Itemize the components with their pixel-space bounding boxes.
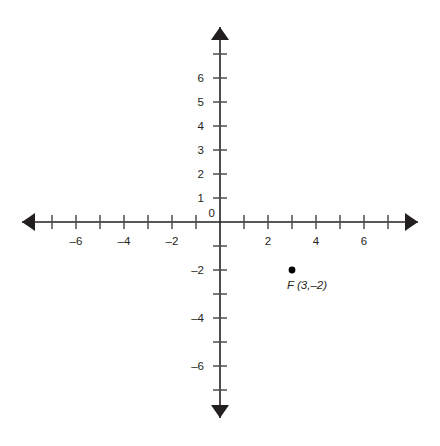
x-axis-tick-label: –2 [166, 235, 179, 247]
origin-label: 0 [209, 207, 215, 219]
x-axis-tick-label: –4 [118, 235, 131, 247]
x-axis-tick-label: 6 [361, 235, 367, 247]
y-axis-tick-label: 5 [198, 96, 204, 108]
x-axis-tick-label: 2 [265, 235, 271, 247]
coordinate-plane-figure: –6–4–2246654321–2–4–60F (3,–2) [0, 0, 440, 446]
x-axis-tick-label: 4 [313, 235, 320, 247]
y-axis-tick-label: 2 [198, 168, 204, 180]
y-axis-tick-label: –2 [191, 264, 204, 276]
y-axis-tick-label: 4 [198, 120, 205, 132]
coordinate-plane-svg: –6–4–2246654321–2–4–60F (3,–2) [0, 0, 440, 446]
data-point-f [289, 267, 296, 274]
data-point-label-f: F (3,–2) [287, 279, 327, 291]
y-axis-tick-label: 3 [198, 144, 204, 156]
y-axis-tick-label: 6 [198, 72, 204, 84]
y-axis-tick-label: –6 [191, 360, 204, 372]
y-axis-tick-label: 1 [198, 192, 204, 204]
y-axis-tick-label: –4 [191, 312, 204, 324]
y-axis-arrow-down [211, 405, 229, 418]
x-axis-arrow-left [22, 213, 35, 231]
x-axis-tick-label: –6 [70, 235, 83, 247]
y-axis-arrow-up [211, 27, 229, 40]
x-axis-arrow-right [405, 213, 418, 231]
